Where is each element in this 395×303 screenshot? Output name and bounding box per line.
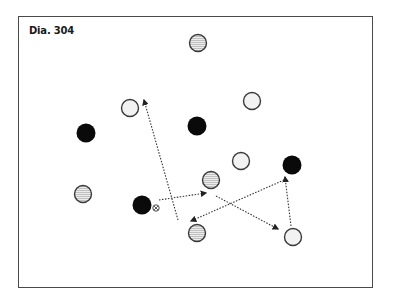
black-player-icon xyxy=(188,117,207,136)
players xyxy=(75,35,302,246)
movement-arrow-5 xyxy=(285,177,291,226)
striped-player-icon xyxy=(189,225,206,242)
white-player-icon xyxy=(244,93,261,110)
movement-arrow-2 xyxy=(159,193,206,200)
striped-player-icon xyxy=(190,35,207,52)
black-player-icon xyxy=(283,156,302,175)
striped-player-icon xyxy=(75,186,92,203)
black-player-icon xyxy=(133,196,152,215)
white-player-icon xyxy=(122,100,139,117)
white-player-icon xyxy=(233,153,250,170)
movement-arrows xyxy=(144,100,291,229)
white-player-icon xyxy=(285,229,302,246)
ball xyxy=(153,205,159,211)
tactical-board xyxy=(0,0,395,303)
striped-player-icon xyxy=(203,172,220,189)
black-player-icon xyxy=(77,124,96,143)
movement-arrow-3 xyxy=(216,196,278,229)
